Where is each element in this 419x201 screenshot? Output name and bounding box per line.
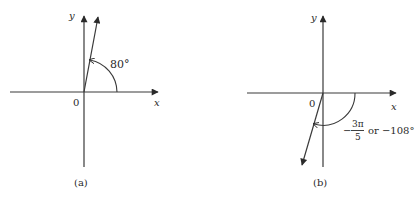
angle-label-denominator: 5 <box>355 132 361 142</box>
angle-label-numerator: 3π <box>352 119 364 129</box>
origin-label: 0 <box>309 98 315 109</box>
angle-label: − 3π 5 or −108° <box>343 119 414 142</box>
x-axis-label: x <box>391 101 397 112</box>
x-axis-label: x <box>154 97 160 108</box>
angle-label-sign: − <box>343 125 351 136</box>
angle-arc <box>314 93 355 125</box>
figure-caption: (a) <box>74 177 88 188</box>
angle-diagrams: 80° 0 x y (a) − 3π 5 or −108° 0 x y (b) <box>0 0 419 201</box>
angle-label: 80° <box>110 58 130 71</box>
y-axis-label: y <box>310 12 317 23</box>
y-axis-label: y <box>68 10 75 21</box>
figure-caption: (b) <box>313 177 327 188</box>
origin-label: 0 <box>73 97 79 108</box>
angle-label-suffix: or −108° <box>368 125 414 136</box>
terminal-ray <box>84 17 98 92</box>
figure-b: − 3π 5 or −108° 0 x y (b) <box>247 12 414 188</box>
figure-a: 80° 0 x y (a) <box>10 10 160 188</box>
